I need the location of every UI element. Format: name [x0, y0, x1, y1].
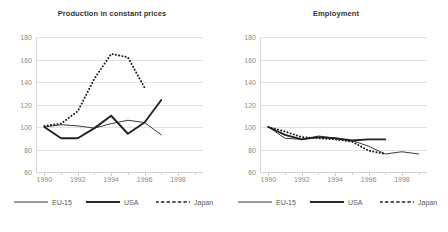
x-tick-mark-minor: [385, 172, 386, 175]
x-tick-mark-minor: [161, 172, 162, 175]
chart-title-production: Production in constant prices: [0, 9, 224, 18]
x-tick-mark-minor: [352, 172, 353, 175]
chart-title-employment: Employment: [224, 9, 448, 18]
legend-label-eu15: EU-15: [52, 199, 72, 206]
x-tick-label: 1992: [294, 176, 310, 183]
legend-item-japan[interactable]: Japan: [380, 198, 437, 206]
x-tick-mark: [145, 172, 146, 176]
y-tick-label: 80: [0, 146, 32, 153]
x-tick-mark: [178, 172, 179, 176]
x-axis-labels-production: 19901992199419961998: [36, 176, 203, 190]
legend-item-eu15[interactable]: EU-15: [238, 198, 296, 206]
chart-canvas: Production in constant prices 1801601401…: [0, 0, 448, 232]
legend-item-eu15[interactable]: EU-15: [14, 198, 72, 206]
legend-employment: EU-15 USA Japan: [238, 198, 434, 214]
x-tick-label: 1998: [170, 176, 186, 183]
chart-panel-employment: Employment 1801601401201008060 199019921…: [224, 0, 448, 232]
x-tick-label: 1998: [394, 176, 410, 183]
x-tick-mark-minor: [419, 172, 420, 175]
legend-swatch-usa: [310, 198, 344, 206]
x-tick-mark: [78, 172, 79, 176]
x-tick-mark: [402, 172, 403, 176]
series-line-usa: [44, 100, 161, 138]
y-axis-labels-employment: 1801601401201008060: [224, 37, 256, 172]
x-tick-label: 1992: [70, 176, 86, 183]
plot-area-production: [36, 37, 203, 172]
legend-label-usa: USA: [348, 199, 362, 206]
x-tick-label: 1990: [261, 176, 277, 183]
legend-label-usa: USA: [124, 199, 138, 206]
y-tick-label: 160: [224, 56, 256, 63]
x-tick-mark-minor: [61, 172, 62, 175]
y-tick-label: 60: [0, 169, 32, 176]
plot-area-employment: [260, 37, 427, 172]
x-tick-mark-minor: [128, 172, 129, 175]
chart-panel-production: Production in constant prices 1801601401…: [0, 0, 224, 232]
legend-item-usa[interactable]: USA: [310, 198, 362, 206]
legend-production: EU-15 USA Japan: [14, 198, 210, 214]
x-tick-mark: [44, 172, 45, 176]
legend-swatch-japan: [380, 198, 414, 206]
series-lines-employment: [260, 37, 427, 172]
y-tick-label: 60: [224, 169, 256, 176]
y-tick-label: 100: [0, 124, 32, 131]
x-tick-mark: [268, 172, 269, 176]
series-line-japan: [268, 127, 385, 154]
y-tick-label: 100: [224, 124, 256, 131]
x-tick-label: 1994: [103, 176, 119, 183]
x-tick-mark: [369, 172, 370, 176]
x-tick-mark-minor: [285, 172, 286, 175]
y-tick-label: 80: [224, 146, 256, 153]
x-tick-mark-minor: [318, 172, 319, 175]
x-tick-label: 1996: [361, 176, 377, 183]
y-tick-label: 160: [0, 56, 32, 63]
x-tick-mark-minor: [195, 172, 196, 175]
x-tick-mark: [335, 172, 336, 176]
y-axis-labels-production: 1801601401201008060: [0, 37, 32, 172]
legend-label-japan: Japan: [194, 199, 213, 206]
legend-label-eu15: EU-15: [276, 199, 296, 206]
legend-swatch-usa: [86, 198, 120, 206]
y-tick-label: 180: [0, 34, 32, 41]
x-tick-label: 1994: [327, 176, 343, 183]
x-tick-mark: [302, 172, 303, 176]
series-lines-production: [36, 37, 203, 172]
legend-label-japan: Japan: [418, 199, 437, 206]
y-tick-label: 180: [224, 34, 256, 41]
x-tick-mark-minor: [94, 172, 95, 175]
x-axis-labels-employment: 19901992199419961998: [260, 176, 427, 190]
y-tick-label: 140: [0, 79, 32, 86]
y-tick-label: 120: [0, 101, 32, 108]
x-tick-label: 1996: [137, 176, 153, 183]
y-tick-label: 140: [224, 79, 256, 86]
legend-item-japan[interactable]: Japan: [156, 198, 213, 206]
series-line-japan: [44, 54, 144, 126]
x-tick-label: 1990: [37, 176, 53, 183]
x-tick-mark: [111, 172, 112, 176]
y-tick-label: 120: [224, 101, 256, 108]
legend-swatch-eu15: [238, 198, 272, 206]
legend-swatch-japan: [156, 198, 190, 206]
legend-item-usa[interactable]: USA: [86, 198, 138, 206]
legend-swatch-eu15: [14, 198, 48, 206]
